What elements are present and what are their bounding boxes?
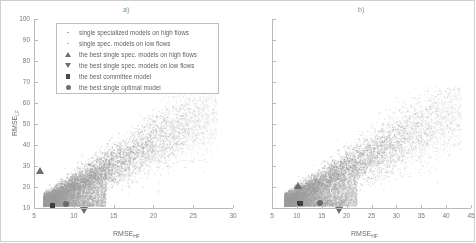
square-icon-glyph	[66, 74, 71, 79]
y-tick-label: 80	[12, 57, 30, 64]
x-tick-label: 45	[463, 212, 476, 219]
x-tick	[322, 205, 323, 208]
panel-b-label: b)	[358, 6, 364, 13]
triangle-up-icon	[57, 52, 79, 57]
x-tick	[193, 205, 194, 208]
circle-icon	[57, 85, 79, 90]
y-tick	[35, 19, 38, 20]
x-tick	[233, 205, 234, 208]
y-tick	[273, 145, 276, 146]
y-axis-line	[34, 19, 35, 208]
y-tick	[35, 208, 38, 209]
y-tick-label: 50	[12, 120, 30, 127]
x-tick-label: 40	[438, 212, 454, 219]
x-tick-label: 35	[413, 212, 429, 219]
x-tick	[446, 205, 447, 208]
x-axis-title-a: RMSEHF	[113, 230, 140, 239]
small-dot-icon	[57, 32, 79, 34]
small-dot-light-icon	[57, 43, 79, 45]
marker-circle	[63, 201, 69, 207]
marker-triangle-up	[294, 182, 302, 189]
small-dot-icon-glyph	[67, 32, 69, 34]
small-dot-light-icon-glyph	[67, 43, 69, 45]
y-tick-label: 90	[12, 36, 30, 43]
x-tick-label: 25	[364, 212, 380, 219]
x-tick-label: 30	[388, 212, 404, 219]
panel-a-label: a)	[123, 6, 129, 13]
x-tick	[34, 205, 35, 208]
scatter-cloud-b	[272, 19, 471, 208]
y-tick	[273, 82, 276, 83]
y-tick	[273, 40, 276, 41]
x-tick-label: 10	[66, 212, 82, 219]
x-tick	[396, 205, 397, 208]
circle-icon-glyph	[66, 85, 71, 90]
x-tick-label: 15	[106, 212, 122, 219]
x-tick-label: 20	[339, 212, 355, 219]
x-tick	[153, 205, 154, 208]
x-tick	[272, 205, 273, 208]
legend: single specialized models on high flowss…	[56, 23, 219, 94]
y-tick-label: 30	[12, 162, 30, 169]
y-tick-label: 60	[12, 99, 30, 106]
y-tick	[273, 208, 276, 209]
panel-b: b) RMSEHF 51015202530354045	[239, 1, 476, 243]
x-tick-label: 15	[314, 212, 330, 219]
x-tick	[347, 205, 348, 208]
legend-item: single specialized models on high flows	[57, 27, 218, 38]
x-tick	[421, 205, 422, 208]
y-tick	[273, 124, 276, 125]
x-tick-label: 10	[289, 212, 305, 219]
legend-item: single spec. models on low flows	[57, 38, 218, 49]
x-tick-label: 5	[264, 212, 280, 219]
y-tick	[35, 61, 38, 62]
x-axis-title-b: RMSEHF	[351, 230, 378, 239]
y-tick	[273, 61, 276, 62]
legend-item-label: the best single spec. models on high flo…	[79, 51, 197, 58]
x-tick	[471, 205, 472, 208]
square-icon	[57, 74, 79, 79]
legend-item-label: the best committee model	[79, 73, 151, 80]
y-tick	[35, 145, 38, 146]
legend-item: the best single spec. models on high flo…	[57, 49, 218, 60]
y-tick	[273, 19, 276, 20]
x-tick	[372, 205, 373, 208]
marker-triangle-up	[36, 167, 44, 174]
y-axis-line	[272, 19, 273, 208]
triangle-down-icon	[57, 63, 79, 68]
y-tick	[35, 103, 38, 104]
legend-item-label: the best single optimal model	[79, 84, 161, 91]
y-tick	[273, 103, 276, 104]
y-tick-label: 40	[12, 141, 30, 148]
y-tick	[35, 124, 38, 125]
legend-item-label: the best single spec. models on low flow…	[79, 62, 195, 69]
x-tick-label: 25	[185, 212, 201, 219]
x-tick-label: 5	[26, 212, 42, 219]
x-axis-line	[34, 208, 233, 209]
triangle-down-icon-glyph	[65, 63, 71, 68]
figure-frame: a) RMSELF RMSEHF 10203040506070809010051…	[0, 0, 475, 242]
x-tick	[74, 205, 75, 208]
y-tick-label: 10	[12, 204, 30, 211]
marker-square	[297, 201, 302, 206]
y-tick	[273, 166, 276, 167]
y-tick-label: 70	[12, 78, 30, 85]
y-tick	[35, 166, 38, 167]
x-tick	[297, 205, 298, 208]
triangle-up-icon-glyph	[65, 52, 71, 57]
legend-item: the best committee model	[57, 71, 218, 82]
y-tick	[35, 40, 38, 41]
legend-item-label: single spec. models on low flows	[79, 40, 170, 47]
legend-item: the best single spec. models on low flow…	[57, 60, 218, 71]
x-tick	[114, 205, 115, 208]
legend-item-label: single specialized models on high flows	[79, 29, 189, 36]
y-tick-label: 100	[12, 15, 30, 22]
x-axis-line	[272, 208, 471, 209]
y-tick	[273, 187, 276, 188]
legend-item: the best single optimal model	[57, 82, 218, 93]
x-tick-label: 20	[145, 212, 161, 219]
y-tick-label: 20	[12, 183, 30, 190]
y-tick	[35, 82, 38, 83]
y-tick	[35, 187, 38, 188]
